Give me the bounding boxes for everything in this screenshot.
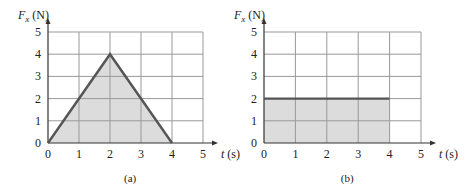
x-tick-label: 4	[387, 147, 393, 161]
x-axis-arrow-icon	[430, 141, 436, 146]
chart-caption: (a)	[124, 172, 137, 185]
y-tick-label: 4	[251, 47, 257, 61]
x-axis-label: t (s)	[439, 147, 458, 161]
x-tick-label: 1	[292, 147, 298, 161]
chart-b: 012345012345Fx (N)t (s)(b)	[233, 8, 458, 185]
chart-caption: (b)	[341, 172, 354, 185]
y-tick-label: 2	[35, 92, 41, 106]
y-axis-label: Fx (N)	[233, 8, 265, 24]
y-tick-label: 1	[35, 114, 41, 128]
x-tick-label: 0	[45, 147, 51, 161]
y-tick-label: 2	[251, 92, 257, 106]
x-tick-label: 0	[261, 147, 267, 161]
y-tick-label: 3	[251, 69, 257, 83]
x-tick-label: 3	[138, 147, 144, 161]
x-tick-label: 5	[200, 147, 206, 161]
x-axis-arrow-icon	[212, 141, 218, 146]
y-tick-label: 0	[35, 136, 41, 150]
chart-a: 012345012345Fx (N)t (s)(a)	[17, 8, 240, 185]
y-tick-label: 5	[251, 25, 257, 39]
y-tick-label: 5	[35, 25, 41, 39]
x-axis-label: t (s)	[221, 147, 240, 161]
y-tick-label: 3	[35, 69, 41, 83]
x-tick-label: 2	[324, 147, 330, 161]
y-axis-label: Fx (N)	[17, 8, 49, 24]
y-tick-label: 1	[251, 114, 257, 128]
x-tick-label: 3	[355, 147, 361, 161]
y-tick-label: 0	[251, 136, 257, 150]
x-tick-label: 5	[418, 147, 424, 161]
figure: 012345012345Fx (N)t (s)(a)012345012345Fx…	[0, 0, 467, 188]
x-tick-label: 4	[169, 147, 175, 161]
y-tick-label: 4	[35, 47, 41, 61]
x-tick-label: 1	[76, 147, 82, 161]
x-tick-label: 2	[107, 147, 113, 161]
